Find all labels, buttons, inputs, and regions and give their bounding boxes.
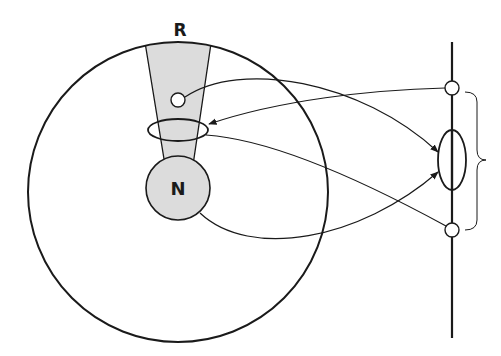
axis-top-circle [445, 81, 459, 95]
label-n: N [170, 178, 185, 199]
connection-nucleus-to-axis-ellipse [200, 172, 438, 239]
diagram-canvas: R N [0, 0, 501, 356]
column-small-circle [171, 93, 185, 107]
curly-brace [465, 92, 486, 230]
connection-axis-top-to-column-ellipse [209, 88, 445, 124]
label-r: R [173, 20, 186, 40]
axis-bottom-circle [445, 223, 459, 237]
